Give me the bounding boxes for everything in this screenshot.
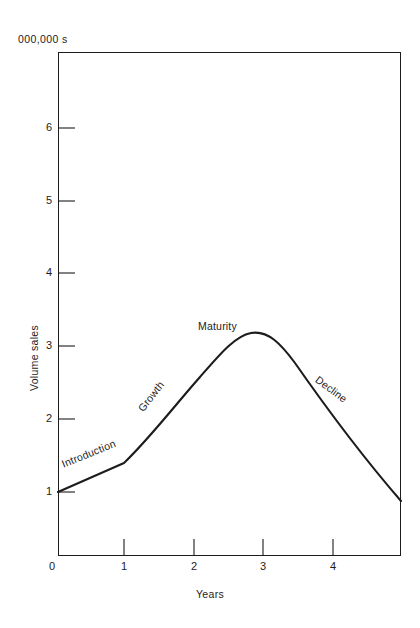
y-tick-marks [58,128,75,492]
x-tick-label-3: 3 [253,560,273,572]
chart-figure: 000,000 s 6 5 4 3 2 1 0 1 2 3 4 Volume s… [0,0,420,628]
y-tick-label-2: 2 [30,412,52,424]
x-axis-title: Years [0,588,420,600]
y-tick-label-6: 6 [30,121,52,133]
annotation-maturity: Maturity [198,320,237,332]
chart-canvas [0,0,420,628]
y-tick-label-1: 1 [30,485,52,497]
x-tick-label-0: 0 [42,560,62,572]
x-tick-label-1: 1 [114,560,134,572]
y-tick-label-4: 4 [30,266,52,278]
x-tick-marks [124,539,333,556]
x-tick-label-4: 4 [323,560,343,572]
x-tick-label-2: 2 [184,560,204,572]
life-cycle-curve [58,333,401,501]
y-tick-label-5: 5 [30,194,52,206]
y-axis-title: Volume sales [28,318,40,398]
